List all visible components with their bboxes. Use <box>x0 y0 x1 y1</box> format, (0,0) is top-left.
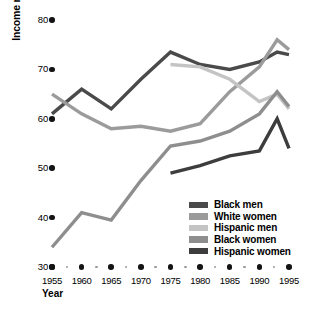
legend-item[interactable]: Black women <box>189 234 291 246</box>
legend-item[interactable]: Hispanic women <box>189 245 291 257</box>
legend-label: Black women <box>214 234 276 245</box>
series-line <box>52 52 289 114</box>
plot-lines <box>0 0 317 316</box>
legend: Black menWhite womenHispanic menBlack wo… <box>189 199 291 257</box>
legend-swatch <box>189 213 208 220</box>
legend-label: Hispanic women <box>214 246 291 257</box>
legend-item[interactable]: Hispanic men <box>189 222 291 234</box>
legend-label: Black men <box>214 199 263 210</box>
x-axis-title: Year <box>42 288 63 299</box>
legend-swatch <box>189 248 208 255</box>
line-chart-figure: Income ratios (percentage of white men) … <box>0 0 317 316</box>
legend-swatch <box>189 225 208 232</box>
legend-item[interactable]: Black men <box>189 199 291 211</box>
series-line <box>171 64 290 108</box>
legend-swatch <box>189 202 208 209</box>
legend-swatch <box>189 236 208 243</box>
legend-label: Hispanic men <box>214 222 277 233</box>
legend-label: White women <box>214 211 277 222</box>
legend-item[interactable]: White women <box>189 211 291 223</box>
